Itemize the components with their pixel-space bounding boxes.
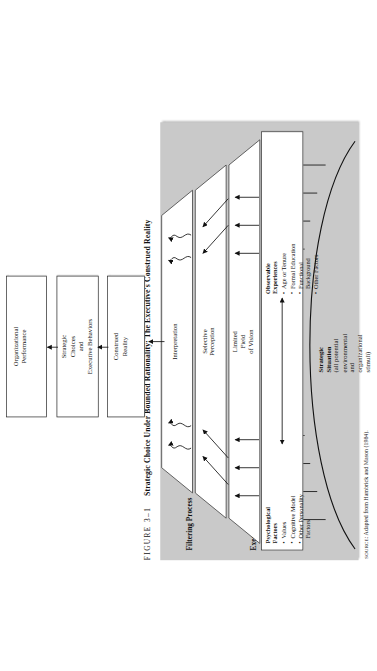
observable-experiences-item: Functional xyxy=(296,243,304,293)
observable-experiences-list: Age or Tenure Formal Education Functiona… xyxy=(281,243,320,293)
bidirectional-link-arrow xyxy=(277,293,285,447)
observable-experiences-heading-2: Experiences xyxy=(271,243,279,293)
figure-stage: FIGURE 3–1 Strategic Choice Under Bounde… xyxy=(143,111,374,559)
psychological-factors-list: Values Cognitive Model Other Personality… xyxy=(281,494,312,543)
psychological-factors-item: Cognitive Model xyxy=(288,494,296,543)
observable-experiences-item: Age or Tenure xyxy=(281,243,289,293)
psychological-factors-item: Factors xyxy=(304,494,312,543)
figure-source: SOURCE: Adapted from Hambrick and Mason … xyxy=(362,110,369,558)
psychological-factors-item: Values xyxy=(281,494,289,543)
executive-behaviors-label: Executive Behaviors xyxy=(86,276,94,416)
construed-reality-label: Construed Reality xyxy=(112,276,128,416)
interpretation-to-construed-arrow xyxy=(146,324,166,352)
choices-to-performance-arrow xyxy=(45,336,59,358)
strategic-situation-detail-1: (all potential xyxy=(332,333,340,371)
psychological-factors-item: Other Personality xyxy=(296,494,304,543)
psychological-factors-heading-2: Factors xyxy=(271,494,279,543)
organizational-performance-box: Organizational Performance xyxy=(6,275,47,417)
observable-experiences-item: Background xyxy=(304,243,312,293)
strategic-situation-title-2: Situation xyxy=(325,333,333,371)
organizational-performance-line2: Performance xyxy=(20,276,28,416)
figure-number: FIGURE 3–1 xyxy=(144,506,152,559)
observable-experiences-item: Other Factors xyxy=(312,243,320,293)
strategic-situation-detail-2: environmental xyxy=(340,333,348,371)
observable-experiences-item: Formal Education xyxy=(288,243,296,293)
strategic-choices-box: Strategic Choices and Executive Behavior… xyxy=(56,275,98,417)
strategic-choices-line4: Executive Behaviors xyxy=(86,276,94,416)
construed-reality-line2: Reality xyxy=(120,276,128,416)
strategic-choices-label-top: Strategic Choices and xyxy=(60,276,84,416)
psychological-factors-column: Psychological Factors Values Cognitive M… xyxy=(263,494,311,543)
filtering-process-heading: Filtering Process xyxy=(185,497,193,550)
construed-to-choices-arrow xyxy=(95,336,109,358)
construed-reality-box: Construed Reality xyxy=(107,275,145,417)
observable-experiences-heading-1: Observable xyxy=(263,243,271,293)
observable-experiences-column: Observable Experiences Age or Tenure For… xyxy=(263,243,319,293)
strategic-choices-line1: Strategic xyxy=(60,276,68,416)
strategic-situation-title-1: Strategic xyxy=(317,333,325,371)
figure-page: FIGURE 3–1 Strategic Choice Under Bounde… xyxy=(0,0,377,671)
organizational-performance-label: Organizational Performance xyxy=(12,276,28,416)
funnel-1-arrows xyxy=(228,139,259,543)
source-prefix: SOURCE xyxy=(363,538,369,559)
psychological-factors-heading-1: Psychological xyxy=(263,494,271,543)
strategic-choices-line3: and xyxy=(76,276,84,416)
strategic-situation-detail-3: and xyxy=(348,333,356,371)
strategic-choices-line2: Choices xyxy=(68,276,76,416)
funnel-2-arrows xyxy=(195,139,229,543)
organizational-performance-line1: Organizational xyxy=(12,276,20,416)
construed-reality-line1: Construed xyxy=(112,276,120,416)
source-text: : Adapted from Hambrick and Mason (1984)… xyxy=(362,430,369,538)
